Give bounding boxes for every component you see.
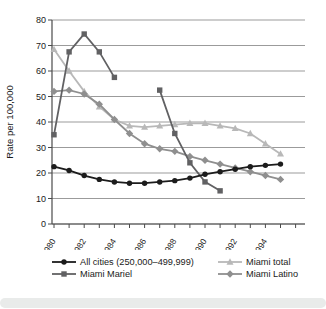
y-tick-label: 80	[36, 15, 46, 25]
diamond-marker-icon	[218, 269, 242, 279]
y-tick-label: 20	[36, 168, 46, 178]
square-marker-icon	[52, 269, 76, 279]
legend-label: Miami Mariel	[80, 269, 132, 279]
series-miami-total	[51, 46, 285, 157]
y-tick-label: 60	[36, 66, 46, 76]
legend-label: Miami total	[246, 257, 290, 267]
x-tick-label: 1986	[130, 237, 149, 250]
x-tick-label: 1994	[251, 237, 270, 250]
y-tick-label: 40	[36, 117, 46, 127]
series-miami-mariel	[51, 31, 222, 193]
y-axis: 01020304050607080	[36, 15, 52, 229]
legend-label: All cities (250,000–499,999)	[80, 257, 194, 267]
y-tick-label: 70	[36, 41, 46, 51]
x-tick-label: 1984	[100, 237, 119, 250]
legend-entry: All cities (250,000–499,999)	[52, 257, 214, 267]
y-tick-label: 50	[36, 92, 46, 102]
triangle-marker-icon	[218, 257, 242, 267]
legend-entry: Miami Mariel	[52, 269, 214, 279]
series-lines	[50, 31, 284, 193]
legend-entry: Miami Latino	[218, 269, 326, 279]
y-tick-label: 30	[36, 143, 46, 153]
legend-label: Miami Latino	[246, 269, 298, 279]
page-bottom-strip	[0, 298, 326, 308]
y-tick-label: 10	[36, 194, 46, 204]
line-chart: Rate per 100,000 01020304050607080 19801…	[0, 0, 326, 250]
x-tick-label: 1982	[69, 237, 88, 250]
x-tick-label: 1992	[220, 237, 239, 250]
chart-area: Rate per 100,000 01020304050607080 19801…	[0, 0, 326, 279]
x-tick-label: 1980	[39, 237, 58, 250]
circle-marker-icon	[52, 257, 76, 267]
legend: All cities (250,000–499,999)Miami totalM…	[0, 257, 326, 279]
legend-entry: Miami total	[218, 257, 326, 267]
series-all-cities-250-000-499-999	[51, 161, 283, 186]
y-axis-title: Rate per 100,000	[4, 85, 15, 158]
x-tick-label: 1988	[160, 237, 179, 250]
gridlines	[52, 20, 305, 224]
y-tick-label: 0	[41, 219, 46, 229]
x-axis: 19801982198419861988199019921994	[39, 224, 305, 250]
x-tick-label: 1990	[190, 237, 209, 250]
